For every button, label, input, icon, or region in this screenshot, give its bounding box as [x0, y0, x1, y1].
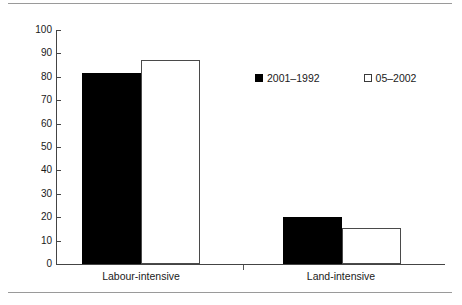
y-tick-label-70: 70	[6, 95, 52, 105]
y-tick-label-80: 80	[6, 72, 52, 82]
bars-layer	[56, 30, 445, 264]
filled-square-icon	[255, 74, 263, 82]
y-tick-label-100: 100	[6, 25, 52, 35]
y-tick-0	[56, 264, 61, 265]
y-tick-label-0: 0	[6, 259, 52, 269]
bar-chart-figure: 0102030405060708090100 Labour-intensive …	[0, 0, 462, 305]
y-tick-label-50: 50	[6, 142, 52, 152]
y-tick-label-60: 60	[6, 119, 52, 129]
y-tick-label-40: 40	[6, 165, 52, 175]
category-separator-tick	[243, 265, 244, 270]
x-axis-line	[56, 264, 445, 265]
legend: 2001–1992 05–2002	[255, 72, 416, 84]
x-axis-label-labour-intensive: Labour-intensive	[56, 270, 226, 283]
x-axis-label-land-intensive: Land-intensive	[256, 270, 426, 283]
y-tick-label-30: 30	[6, 189, 52, 199]
y-tick-label-90: 90	[6, 48, 52, 58]
legend-item-series-2: 05–2002	[364, 72, 417, 84]
bar-labour-intensive-series-2	[141, 60, 200, 264]
y-tick-label-20: 20	[6, 212, 52, 222]
hollow-square-icon	[364, 74, 372, 82]
bar-land-intensive-series-1	[283, 217, 342, 264]
bar-labour-intensive-series-1	[82, 73, 141, 264]
legend-item-series-1: 2001–1992	[255, 72, 320, 84]
bar-land-intensive-series-2	[342, 228, 401, 264]
legend-label-series-1: 2001–1992	[267, 72, 320, 84]
legend-label-series-2: 05–2002	[376, 72, 417, 84]
y-tick-label-10: 10	[6, 236, 52, 246]
